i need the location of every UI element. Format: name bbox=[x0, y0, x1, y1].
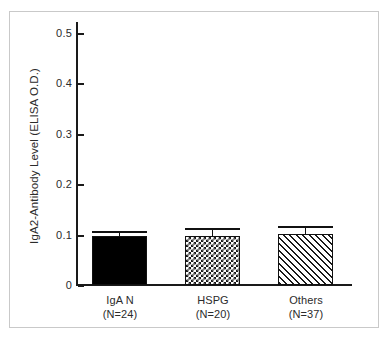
x-category-name-iga-n: IgA N bbox=[84, 293, 156, 307]
plot-area: IgA2-Antibody Level (ELISA O.D.) 0.5 0.4… bbox=[0, 0, 390, 340]
y-tick-label-wrap-0.3: 0.3 bbox=[36, 129, 72, 140]
y-tick-label-0.3: 0.3 bbox=[40, 129, 72, 140]
y-tick-label-wrap-0.4: 0.4 bbox=[36, 78, 72, 89]
error-bar-stem-others bbox=[305, 226, 307, 235]
x-category-n-iga-n: (N=24) bbox=[84, 307, 156, 321]
y-tick-label-0.1: 0.1 bbox=[40, 230, 72, 241]
x-category-label-hspg: HSPG (N=20) bbox=[177, 293, 249, 321]
y-axis-line bbox=[76, 22, 78, 286]
error-bar-stem-iga-n bbox=[119, 231, 121, 237]
x-category-name-hspg: HSPG bbox=[177, 293, 249, 307]
y-tick-0.5 bbox=[78, 33, 84, 35]
y-tick-0.3 bbox=[78, 134, 84, 136]
error-bar-stem-hspg bbox=[212, 228, 214, 237]
y-tick-label-0.5: 0.5 bbox=[40, 28, 72, 39]
x-category-n-others: (N=37) bbox=[270, 307, 342, 321]
x-category-label-others: Others (N=37) bbox=[270, 293, 342, 321]
y-tick-label-wrap-0.2: 0.2 bbox=[36, 179, 72, 190]
y-tick-label-0.4: 0.4 bbox=[40, 78, 72, 89]
bar-hspg[interactable] bbox=[185, 236, 240, 285]
bar-others[interactable] bbox=[278, 234, 333, 285]
y-tick-label-0.2: 0.2 bbox=[40, 179, 72, 190]
y-tick-label-wrap-0.1: 0.1 bbox=[36, 230, 72, 241]
x-category-name-others: Others bbox=[270, 293, 342, 307]
x-category-label-iga-n: IgA N (N=24) bbox=[84, 293, 156, 321]
bar-iga-n[interactable] bbox=[92, 236, 147, 285]
y-tick-0.1 bbox=[78, 235, 84, 237]
y-tick-0.4 bbox=[78, 83, 84, 85]
x-category-n-hspg: (N=20) bbox=[177, 307, 249, 321]
chart-figure: IgA2-Antibody Level (ELISA O.D.) 0.5 0.4… bbox=[0, 0, 390, 340]
y-tick-label-wrap-0.5: 0.5 bbox=[36, 28, 72, 39]
y-tick-label-0: 0 bbox=[40, 280, 72, 291]
y-tick-label-wrap-0: 0 bbox=[36, 280, 72, 291]
y-tick-0.2 bbox=[78, 184, 84, 186]
y-tick-0 bbox=[78, 285, 84, 287]
